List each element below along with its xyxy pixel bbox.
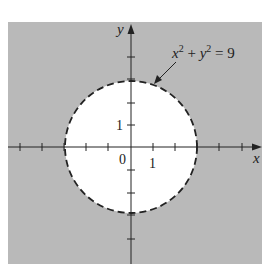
y-tick-label-1: 1 [116,118,123,133]
origin-label: 0 [119,152,126,167]
circle-region-figure: x y 0 1 1 x2 + y2 = 9 [0,0,275,278]
x-tick-label-1: 1 [149,156,156,171]
y-axis-label: y [115,21,124,37]
x-axis-label: x [252,150,260,166]
